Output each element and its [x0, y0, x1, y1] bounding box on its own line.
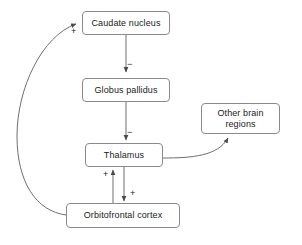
edge-orbitofrontal-to-caudate — [17, 24, 76, 215]
edge-thalamus-to-other-brain — [163, 138, 228, 158]
edge-sign-globus-to-thalamus: − — [127, 128, 132, 137]
node-other-brain-regions-label: Other brain regions — [217, 108, 263, 130]
node-orbitofrontal-cortex[interactable]: Orbitofrontal cortex — [66, 203, 180, 228]
circuit-diagram: Caudate nucleus Globus pallidus Thalamus… — [0, 0, 302, 245]
edge-sign-caudate-to-globus: − — [127, 60, 132, 69]
edge-sign-thalamus-to-orbitofrontal: + — [130, 189, 135, 198]
node-caudate-nucleus-label: Caudate nucleus — [91, 18, 160, 29]
edge-sign-orbitofrontal-to-thalamus: + — [103, 170, 108, 179]
node-thalamus-label: Thalamus — [104, 150, 144, 161]
node-globus-pallidus-label: Globus pallidus — [94, 85, 157, 96]
node-orbitofrontal-cortex-label: Orbitofrontal cortex — [84, 210, 163, 221]
node-globus-pallidus[interactable]: Globus pallidus — [82, 78, 170, 102]
node-caudate-nucleus[interactable]: Caudate nucleus — [82, 11, 170, 35]
node-other-brain-regions[interactable]: Other brain regions — [201, 103, 280, 134]
edge-sign-orbitofrontal-to-caudate: + — [71, 27, 76, 36]
node-thalamus[interactable]: Thalamus — [85, 143, 163, 167]
